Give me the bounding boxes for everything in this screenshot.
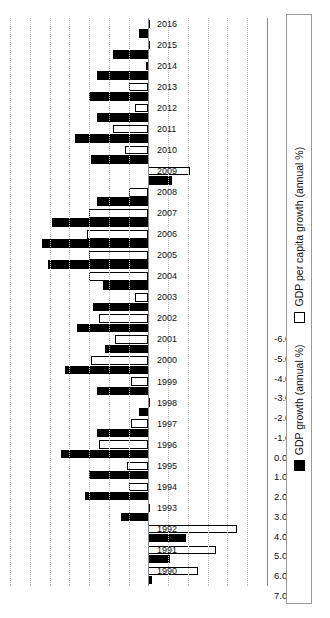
bar-gdp-growth [148,534,186,542]
chart-canvas: 1990199119921993199419951996199719981999… [0,0,330,618]
bar-gdp-growth [148,555,170,563]
plot-wrapper: 1990199119921993199419951996199719981999… [0,0,330,618]
bar-gdp-growth [97,71,148,79]
bar-gdp-per-capita-growth [127,462,149,470]
bar-gdp-growth [139,408,149,416]
gridline [50,18,51,586]
bar-gdp-growth [121,513,149,521]
bar-gdp-growth [65,366,148,374]
plot-area [10,18,267,586]
bar-gdp-growth [85,492,148,500]
value-axis-line [267,18,268,586]
bar-gdp-per-capita-growth [129,83,149,91]
legend-item-gdp-per-capita-growth: GDP per capita growth (annual %) [293,147,305,323]
bar-gdp-per-capita-growth [91,356,148,364]
bar-gdp-per-capita-growth [135,293,149,301]
bar-gdp-per-capita-growth [148,567,197,575]
bar-gdp-per-capita-growth [148,546,215,554]
bar-gdp-growth [97,197,148,205]
bar-gdp-growth [52,218,149,226]
bar-gdp-per-capita-growth [135,104,149,112]
bar-gdp-growth [97,429,148,437]
filled-square-icon [294,460,305,471]
bar-gdp-growth [91,155,148,163]
bar-gdp-per-capita-growth [99,314,148,322]
gridline [10,18,11,586]
gridline [89,18,90,586]
gridline [129,18,130,586]
chart-legend: GDP growth (annual %) GDP per capita gro… [286,14,312,604]
legend-item-gdp-growth: GDP growth (annual %) [293,345,305,472]
bar-gdp-growth [89,471,148,479]
gridline [69,18,70,586]
bar-gdp-per-capita-growth [89,209,148,217]
bar-gdp-growth [139,29,149,37]
gridline [247,18,248,586]
bar-gdp-growth [61,450,148,458]
bar-gdp-per-capita-growth [148,525,237,533]
bar-gdp-per-capita-growth [99,440,148,448]
bar-gdp-per-capita-growth [87,230,148,238]
gridline [188,18,189,586]
rotated-figure: 1990199119921993199419951996199719981999… [0,0,330,618]
hollow-square-icon [294,312,305,323]
bar-gdp-growth [89,92,148,100]
bar-gdp-per-capita-growth [89,272,148,280]
bar-gdp-growth [97,113,148,121]
legend-label-gdp-growth: GDP growth (annual %) [293,345,305,456]
bar-gdp-per-capita-growth [115,335,149,343]
gridline [168,18,169,586]
bar-gdp-per-capita-growth [131,377,149,385]
bar-gdp-per-capita-growth [113,125,149,133]
gridline [30,18,31,586]
bar-gdp-per-capita-growth [129,188,149,196]
gridline [109,18,110,586]
bar-gdp-growth [48,260,149,268]
bar-gdp-growth [97,387,148,395]
bar-gdp-growth [113,50,149,58]
bar-gdp-growth [75,134,148,142]
bar-gdp-per-capita-growth [131,419,149,427]
bar-gdp-growth [42,239,149,247]
gridline [208,18,209,586]
legend-label-gdp-per-capita-growth: GDP per capita growth (annual %) [293,147,305,307]
bar-gdp-growth [105,345,148,353]
zero-axis-line [148,18,149,586]
bar-gdp-per-capita-growth [89,251,148,259]
bar-gdp-growth [93,303,148,311]
bar-gdp-per-capita-growth [129,483,149,491]
bar-gdp-growth [77,324,148,332]
gridline [227,18,228,586]
